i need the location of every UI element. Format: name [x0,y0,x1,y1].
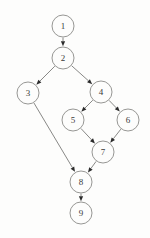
graph-node-7[interactable]: 7 [92,141,114,163]
graph-edge-5-to-7 [81,128,92,139]
node-label-2: 2 [61,53,66,63]
node-label-1: 1 [61,21,66,31]
graph-node-4[interactable]: 4 [90,81,112,103]
node-label-7: 7 [101,147,106,157]
node-label-8: 8 [79,177,84,187]
arrowhead-icon-1-to-2 [61,41,65,46]
graph-node-6[interactable]: 6 [117,109,139,131]
graph-node-3[interactable]: 3 [17,82,39,104]
arrowhead-icon-8-to-9 [79,196,83,201]
graph-edge-2-to-3 [40,66,55,81]
graph-edge-6-to-7 [113,129,121,139]
graph-edge-7-to-8 [91,161,96,168]
node-label-5: 5 [71,115,76,125]
graph-figure: 123456789 [0,0,150,238]
arrowhead-icon-7-to-8 [88,167,93,172]
graph-edge-2-to-4 [72,66,89,81]
node-label-6: 6 [126,115,131,125]
graph-canvas: 123456789 [0,0,150,238]
graph-node-1[interactable]: 1 [52,15,74,37]
arrowhead-icon-3-to-8 [71,166,75,171]
graph-node-9[interactable]: 9 [70,202,92,224]
nodes-layer: 123456789 [17,15,139,224]
node-label-4: 4 [99,87,104,97]
graph-node-8[interactable]: 8 [70,171,92,193]
node-label-9: 9 [79,208,84,218]
graph-node-5[interactable]: 5 [62,109,84,131]
node-label-3: 3 [26,88,31,98]
graph-node-2[interactable]: 2 [52,47,74,69]
graph-edge-4-to-6 [109,100,116,108]
graph-edge-4-to-5 [85,100,93,108]
